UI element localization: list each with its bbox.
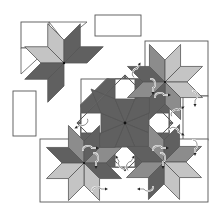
corner-star-dot — [164, 81, 166, 83]
main-block — [40, 41, 208, 202]
corner-star-dot — [83, 162, 85, 164]
loose-rectangle-top — [95, 15, 141, 36]
quilt-assembly-diagram — [0, 0, 215, 209]
center-star-dot — [124, 122, 127, 125]
loose-rectangle-left — [13, 91, 36, 136]
star-center-dot — [63, 62, 65, 64]
loose-star-corner-square — [21, 22, 49, 48]
diagram-canvas — [0, 0, 215, 209]
